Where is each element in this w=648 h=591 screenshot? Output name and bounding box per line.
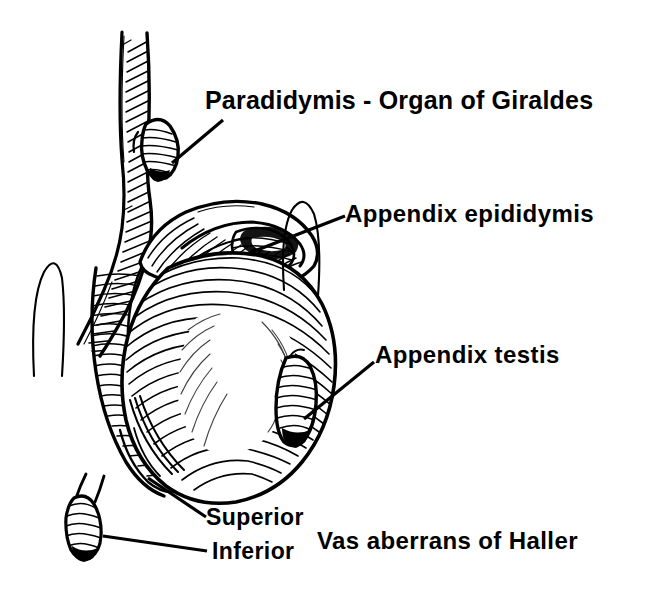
leader-inferior bbox=[103, 536, 207, 551]
label-appendix-testis: Appendix testis bbox=[375, 343, 560, 367]
suture-loop-left bbox=[33, 263, 64, 376]
label-superior: Superior bbox=[206, 506, 304, 529]
label-inferior: Inferior bbox=[212, 540, 294, 563]
vas-aberrans-inferior bbox=[66, 474, 104, 562]
leader-paradidymis bbox=[172, 120, 223, 163]
paradidymis-nodule bbox=[134, 119, 179, 182]
label-appendix-epididymis: Appendix epididymis bbox=[345, 202, 594, 226]
label-vas-aberrans-of-haller: Vas aberrans of Haller bbox=[317, 529, 578, 553]
label-paradidymis: Paradidymis - Organ of Giraldes bbox=[205, 88, 593, 113]
